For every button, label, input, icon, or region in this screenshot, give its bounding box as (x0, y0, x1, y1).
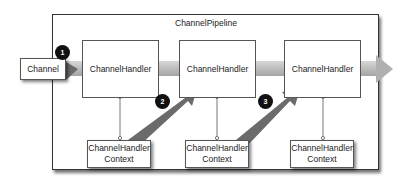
context-label-line2: Context (186, 154, 247, 165)
channel-handler-context-2: ChannelHandler Context (185, 140, 249, 168)
handler-label: ChannelHandler (187, 64, 248, 75)
channel-box: Channel (20, 58, 66, 80)
step-badge-2: 2 (155, 94, 170, 109)
step-badge-1: 1 (55, 45, 70, 60)
context-label-line1: ChannelHandler (88, 143, 149, 154)
step-badge-3: 3 (258, 94, 273, 109)
channel-handler-2: ChannelHandler (179, 40, 256, 98)
context-label-line1: ChannelHandler (291, 143, 352, 154)
context-label-line1: ChannelHandler (186, 143, 247, 154)
channel-handler-context-1: ChannelHandler Context (87, 140, 151, 168)
channel-handler-1: ChannelHandler (82, 40, 159, 98)
step-number: 3 (264, 98, 268, 105)
handler-label: ChannelHandler (292, 64, 353, 75)
context-label-line2: Context (291, 154, 352, 165)
channel-handler-context-3: ChannelHandler Context (290, 140, 354, 168)
context-label-line2: Context (88, 154, 149, 165)
channel-handler-3: ChannelHandler (284, 40, 361, 98)
handler-label: ChannelHandler (90, 64, 151, 75)
channel-label: Channel (27, 64, 59, 75)
step-number: 1 (61, 49, 65, 56)
step-number: 2 (161, 98, 165, 105)
